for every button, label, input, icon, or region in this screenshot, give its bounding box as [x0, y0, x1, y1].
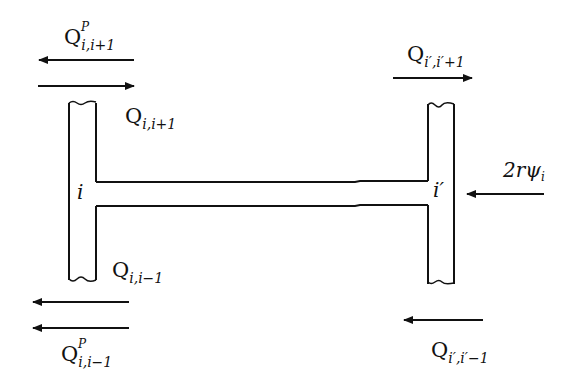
source-subscript: i — [541, 170, 545, 184]
label-source: 2rψi — [503, 160, 545, 180]
flow-superscript: P — [78, 338, 86, 350]
flow-symbol: Q — [64, 25, 81, 49]
flow-subscript: i′,i′+1 — [424, 54, 464, 70]
flow-subscript: i′,i′−1 — [448, 350, 488, 366]
right-column-top-break — [428, 103, 454, 107]
left-column-top-break — [69, 101, 96, 104]
channel-bottom — [96, 205, 428, 206]
node-label-i: i — [77, 182, 83, 202]
right-column-bottom-break — [428, 281, 454, 284]
flow-subscript: i,i+1 — [142, 116, 176, 132]
channel-top — [96, 181, 428, 182]
flow-subscript: i,i−1 — [129, 270, 163, 286]
label-q-i-im1: Qi,i−1 — [112, 260, 163, 281]
label-q-i-ip1: Qi,i+1 — [125, 106, 176, 127]
flow-symbol: Q — [112, 258, 129, 282]
node-label-i-prime: i′ — [433, 180, 444, 200]
diagram-canvas: i i′ QPi,i+1 Qi,i+1 Qi,i−1 QPi,i−1 Qi′,i… — [0, 0, 579, 384]
flow-symbol: Q — [407, 42, 424, 66]
flow-symbol: Q — [431, 338, 448, 362]
label-qp-i-im1: QPi,i−1 — [61, 344, 112, 365]
left-column-bottom-break — [69, 277, 96, 281]
label-q-ip-ip1: Qi′,i′+1 — [407, 44, 465, 65]
flow-superscript: P — [81, 21, 89, 33]
flow-subscript: i,i−1 — [78, 354, 112, 370]
flow-subscript: i,i+1 — [81, 37, 115, 53]
flow-symbol: Q — [61, 342, 78, 366]
diagram-shapes — [0, 0, 579, 384]
label-q-ip-im1: Qi′,i′−1 — [431, 340, 489, 361]
label-qp-i-ip1: QPi,i+1 — [64, 27, 115, 48]
flow-symbol: Q — [125, 104, 142, 128]
source-text: 2rψ — [503, 158, 541, 182]
